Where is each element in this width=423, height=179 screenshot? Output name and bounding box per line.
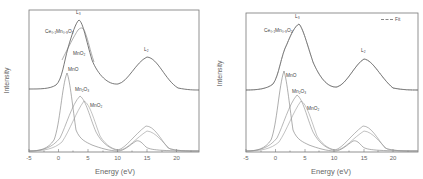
right-plot-frame <box>246 13 418 152</box>
left-x-tick: 5 <box>86 155 89 161</box>
left-x-tick: 10 <box>114 155 121 161</box>
left-y-axis-label: Intensity <box>3 67 10 93</box>
right-curve-mno <box>246 71 418 151</box>
left-x-tick: 15 <box>144 155 151 161</box>
right-x-tick: 20 <box>390 155 397 161</box>
right-x-tick: 10 <box>331 155 338 161</box>
left-label-l2: L₂ <box>144 47 149 52</box>
legend-fit-label: Fit <box>395 17 400 22</box>
right-curve-fit <box>246 24 418 90</box>
right-legend: Fit <box>381 17 400 22</box>
legend-fit-line-icon <box>381 19 393 20</box>
left-label-mn2o3: Mn₂O₃ <box>75 87 89 92</box>
right-curve-sample <box>246 24 418 90</box>
right-x-tick: -5 <box>243 155 248 161</box>
left-chart-panel: Intensity Energy (eV) -5 0 5 10 15 20 L₃… <box>0 0 211 179</box>
left-plot-svg <box>0 0 211 179</box>
right-label-mno: MnO <box>286 73 296 78</box>
right-curve-mn2o3 <box>246 95 418 151</box>
right-label-mno2: MnO₂ <box>307 106 319 111</box>
right-plot-svg <box>211 0 423 179</box>
right-x-axis-label: Energy (eV) <box>311 167 351 176</box>
left-curve-mn2o3 <box>29 96 199 151</box>
left-x-axis-label: Energy (eV) <box>95 167 135 176</box>
left-label-mno2: MnO₂ <box>90 103 102 108</box>
left-label-l3: L₃ <box>76 10 81 15</box>
right-label-l2: L₂ <box>361 48 366 53</box>
right-label-sample: Ce₀.₁Mn₀.₉O₂ <box>264 28 293 33</box>
left-x-tick: 0 <box>57 155 60 161</box>
right-x-tick: 0 <box>274 155 277 161</box>
left-x-tick: -5 <box>26 155 31 161</box>
right-chart-panel: Intensity Energy (eV) -5 0 5 10 15 20 L₃… <box>211 0 423 179</box>
left-x-tick: 20 <box>173 155 180 161</box>
right-y-axis-label: Intensity <box>216 60 223 86</box>
right-label-mn2o3: Mn₂O₃ <box>292 89 306 94</box>
right-x-tick: 5 <box>303 155 306 161</box>
left-label-mno2-top: MnO₂ <box>73 51 85 56</box>
left-label-mno: MnO <box>68 67 78 72</box>
right-x-tick: 15 <box>361 155 368 161</box>
right-label-l3: L₃ <box>295 14 300 19</box>
left-label-sample: Ce₀.₁Mn₀.₉O₂ <box>45 29 74 34</box>
